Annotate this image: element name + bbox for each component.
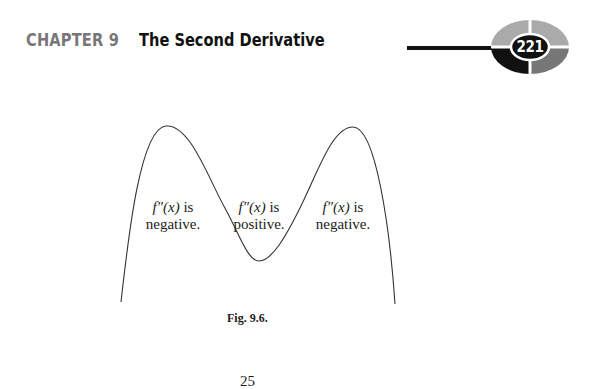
region-label-math: f″(x) <box>239 199 266 215</box>
region-label-sign: negative. <box>142 216 204 233</box>
region-label-text: is <box>266 199 280 215</box>
figure-caption: Fig. 9.6. <box>227 311 268 326</box>
region-label-sign: positive. <box>228 216 290 233</box>
region-label-right: f″(x) is negative. <box>312 199 374 233</box>
region-label-text: is <box>350 199 364 215</box>
partial-footer-text: 25 <box>240 374 255 389</box>
region-label-math: f″(x) <box>323 199 350 215</box>
region-label-sign: negative. <box>312 216 374 233</box>
region-label-left: f″(x) is negative. <box>142 199 204 233</box>
region-label-center: f″(x) is positive. <box>228 199 290 233</box>
region-label-math: f″(x) <box>153 199 180 215</box>
region-label-text: is <box>180 199 194 215</box>
